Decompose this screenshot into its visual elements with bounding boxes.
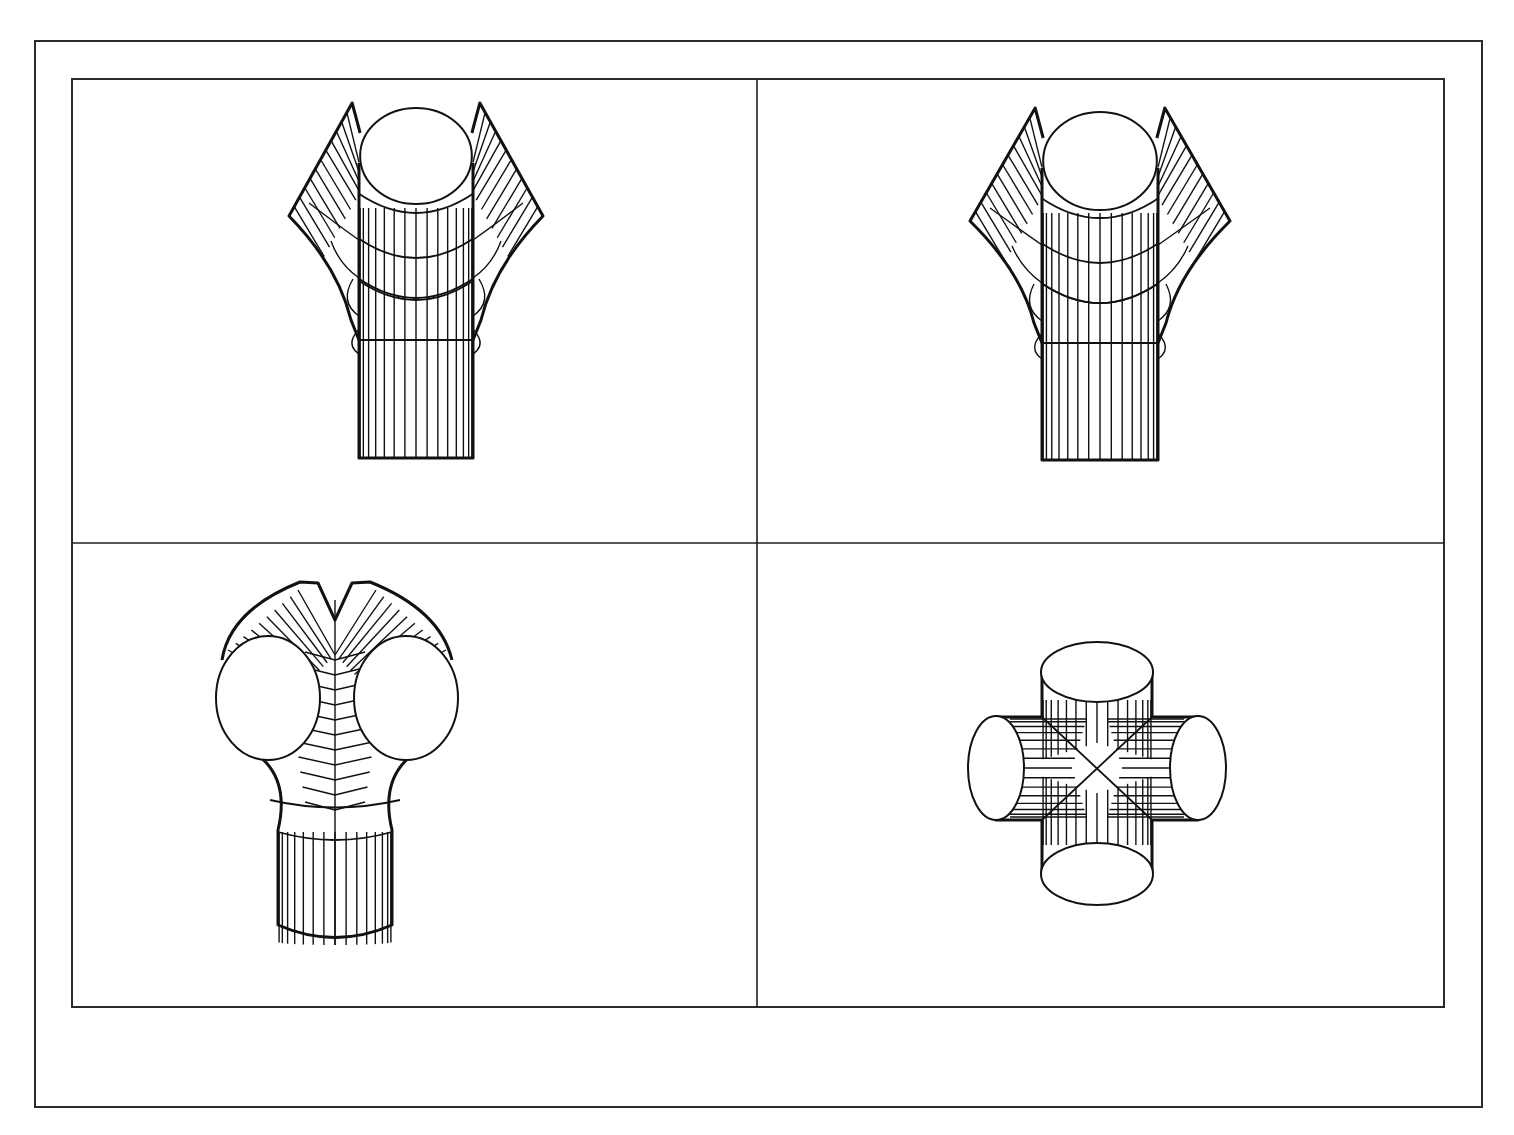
- right-opening-ellipse: [1170, 716, 1226, 820]
- top-opening-ellipse: [360, 108, 472, 204]
- top-opening-ellipse: [1041, 642, 1153, 702]
- left-branch-opening: [216, 636, 320, 760]
- outer-frame: [35, 41, 1482, 1107]
- right-branch-opening: [354, 636, 458, 760]
- panel-top-right-y-junction: [970, 108, 1230, 460]
- top-opening-ellipse: [1043, 112, 1157, 210]
- panel-bottom-right-cross-junction: [968, 642, 1226, 905]
- panel-top-left-y-junction: [289, 103, 543, 458]
- bottom-opening-ellipse: [1041, 843, 1153, 905]
- figure-canvas: [0, 0, 1514, 1135]
- left-opening-ellipse: [968, 716, 1024, 820]
- panel-bottom-left-tilted-y: [216, 582, 458, 945]
